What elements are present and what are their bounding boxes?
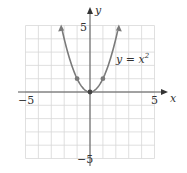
x-axis-label: x: [170, 92, 177, 105]
x-min-tick-label: −5: [18, 94, 34, 107]
y-max-tick-label: 5: [80, 21, 87, 34]
y-axis-label: y: [94, 4, 102, 17]
curve-label: y = x2: [115, 52, 150, 66]
y-axis-arrow-icon: [87, 7, 93, 14]
x-axis-arrow-icon: [161, 89, 168, 95]
axes: [18, 7, 168, 166]
parabola-chart: y x 5 −5 −5 5 y = x2: [0, 0, 187, 173]
data-point: [75, 76, 80, 81]
y-min-tick-label: −5: [77, 153, 93, 166]
data-point: [101, 76, 106, 81]
data-point: [88, 90, 93, 95]
x-max-tick-label: 5: [151, 94, 158, 107]
